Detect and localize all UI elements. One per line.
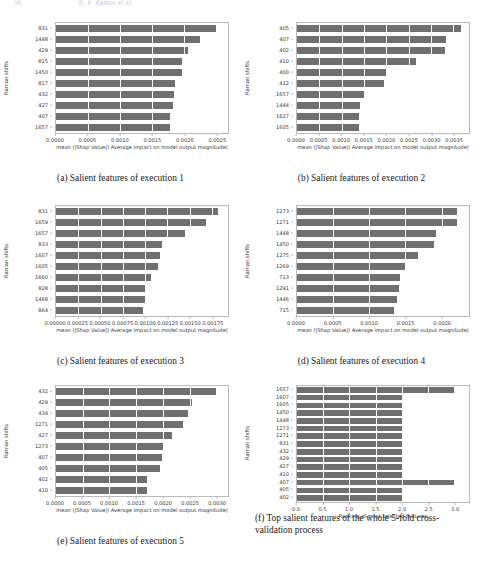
y-tick-mark <box>291 481 293 482</box>
figure-f: Raman shifts 165716071605145014481273127… <box>241 379 482 507</box>
x-tick-mark <box>454 134 455 136</box>
bar <box>56 399 192 407</box>
gridline <box>409 23 410 133</box>
x-tick-mark <box>296 134 297 136</box>
bar <box>56 241 162 249</box>
y-tick-mark <box>291 388 293 389</box>
y-tick-label: 1448 <box>276 230 289 236</box>
x-tick-mark <box>55 317 56 319</box>
bar <box>297 102 360 110</box>
y-tick-label: 1605 <box>276 124 289 130</box>
x-tick-mark <box>405 317 406 319</box>
y-tick-label: 815 <box>38 58 48 64</box>
x-tick-label: 0.00000 <box>44 320 65 326</box>
y-tick-mark <box>50 49 52 50</box>
y-tick-label: 410 <box>279 471 289 477</box>
figure-c: Raman shifts 831165916578331607160516608… <box>0 199 241 351</box>
x-tick-labels-d: 0.00000.00050.00100.00150.0020 <box>296 318 470 327</box>
y-tick-label: 831 <box>279 440 289 446</box>
y-tick-label: 1273 <box>276 208 289 214</box>
caption-c: (c) Salient features of execution 3 <box>8 355 233 367</box>
x-tick-mark <box>363 134 364 136</box>
x-tick-label: 0.0000 <box>287 320 305 326</box>
y-tick-label: 427 <box>279 463 289 469</box>
gridline <box>454 386 455 502</box>
x-tick-mark <box>341 134 342 136</box>
y-tick-label: 1273 <box>276 425 289 431</box>
x-tick-mark <box>190 497 191 499</box>
y-tick-label: 427 <box>38 432 48 438</box>
x-tick-mark <box>296 503 297 505</box>
x-tick-mark <box>120 134 121 136</box>
y-tick-label: 1607 <box>35 252 48 258</box>
bars-b <box>297 23 469 133</box>
x-tick-mark <box>369 317 370 319</box>
y-tick-mark <box>50 232 52 233</box>
y-tick-mark <box>50 210 52 211</box>
bar <box>56 432 172 440</box>
x-axis-title-d: mean (|Shap Value|) Average impact on mo… <box>296 327 470 333</box>
x-tick-mark <box>122 317 123 319</box>
gridline <box>364 23 365 133</box>
bar <box>297 25 461 33</box>
y-tick-mark <box>50 115 52 116</box>
x-tick-mark <box>442 317 443 319</box>
y-tick-mark <box>50 309 52 310</box>
y-tick-label: 412 <box>279 80 289 86</box>
gridline <box>342 23 343 133</box>
bar <box>56 274 151 282</box>
x-tick-label: 0.0035 <box>445 137 463 143</box>
bar <box>56 487 147 495</box>
x-tick-label: 0.0010 <box>100 500 118 506</box>
x-tick-label: 0.00175 <box>202 320 223 326</box>
bar <box>56 208 218 216</box>
y-tick-mark <box>291 396 293 397</box>
x-tick-label: 0.0025 <box>181 500 199 506</box>
x-tick-label: 0.0015 <box>143 137 161 143</box>
y-tick-label: 405 <box>279 25 289 31</box>
y-tick-mark <box>291 93 293 94</box>
gridline <box>333 206 334 316</box>
y-tick-mark <box>291 474 293 475</box>
y-tick-mark <box>50 276 52 277</box>
figure-e: Raman shifts 432429434127142712734074054… <box>0 379 241 531</box>
gridline <box>402 386 403 502</box>
y-tick-mark <box>291 254 293 255</box>
gridline <box>431 23 432 133</box>
y-tick-label: 1269 <box>276 263 289 269</box>
caption-f: (f) Top salient features of the whole 5-… <box>255 512 476 536</box>
y-tick-labels-f: 1657160716051450144812731271831432429427… <box>241 385 293 503</box>
x-tick-mark <box>167 317 168 319</box>
x-tick-label: 0.0010 <box>332 137 350 143</box>
y-tick-mark <box>291 298 293 299</box>
y-tick-mark <box>291 497 293 498</box>
y-tick-mark <box>291 466 293 467</box>
y-tick-mark <box>291 419 293 420</box>
x-tick-mark <box>217 497 218 499</box>
y-tick-label: 1291 <box>276 285 289 291</box>
x-tick-mark <box>163 497 164 499</box>
y-tick-labels-d: 12731271144814501275126971312911446715 <box>241 205 293 317</box>
bar <box>297 252 418 260</box>
y-tick-label: 831 <box>38 25 48 31</box>
y-tick-mark <box>291 71 293 72</box>
y-tick-mark <box>291 38 293 39</box>
y-tick-label: 1271 <box>276 219 289 225</box>
y-tick-label: 1657 <box>35 230 48 236</box>
x-tick-mark <box>55 134 56 136</box>
y-tick-label: 400 <box>279 69 289 75</box>
gridline <box>190 386 191 496</box>
x-axis-title-e: mean (|Shap Value|) Average impact on mo… <box>55 507 229 513</box>
x-tick-labels-a: 0.00000.00050.00100.00150.00200.0025 <box>55 135 229 144</box>
gridline <box>83 386 84 496</box>
y-tick-label: 429 <box>279 455 289 461</box>
x-tick-mark <box>136 497 137 499</box>
x-tick-mark <box>296 317 297 319</box>
y-tick-mark <box>50 423 52 424</box>
y-tick-label: 407 <box>38 454 48 460</box>
x-tick-mark <box>212 317 213 319</box>
x-tick-mark <box>87 134 88 136</box>
gridline <box>323 386 324 502</box>
x-tick-mark <box>184 134 185 136</box>
y-tick-label: 407 <box>279 36 289 42</box>
